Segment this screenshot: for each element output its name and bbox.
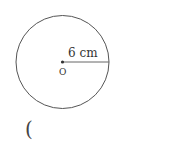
answer-paren: ( xyxy=(25,119,33,139)
center-point xyxy=(61,60,64,63)
center-label: O xyxy=(59,67,66,77)
radius-label: 6 cm xyxy=(68,46,98,60)
